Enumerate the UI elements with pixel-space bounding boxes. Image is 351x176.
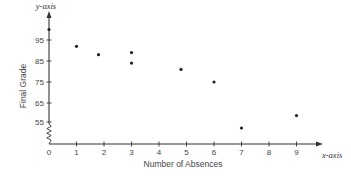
y-tick-label: 55 xyxy=(35,118,44,127)
data-point xyxy=(240,126,243,129)
y-tick-label: 85 xyxy=(35,57,44,66)
axes xyxy=(47,11,324,147)
y-tick-label: 75 xyxy=(35,78,44,87)
data-point xyxy=(97,53,100,56)
x-tick-label: 2 xyxy=(102,148,107,157)
x-axis-arrow-icon xyxy=(316,142,323,147)
x-tick-label: 4 xyxy=(157,148,162,157)
data-point xyxy=(130,62,133,65)
x-tick-label: 5 xyxy=(184,148,189,157)
data-point xyxy=(295,114,298,117)
x-tick-label: 1 xyxy=(74,148,79,157)
y-tick-label: 65 xyxy=(35,99,44,108)
data-point xyxy=(179,68,182,71)
x-tick-label: 9 xyxy=(294,148,299,157)
data-points xyxy=(47,28,298,130)
y-axis-arrow-icon xyxy=(47,11,52,18)
data-point xyxy=(75,45,78,48)
x-tick-label: 6 xyxy=(212,148,217,157)
y-axis-title: Final Grade xyxy=(18,64,28,109)
y-tick-label: 95 xyxy=(35,36,44,45)
data-point xyxy=(47,28,50,31)
x-tick-label: 3 xyxy=(129,148,134,157)
x-tick-label: 7 xyxy=(239,148,244,157)
x-tick-label: 0 xyxy=(47,148,52,157)
x-axis-name: x-axis xyxy=(321,150,343,160)
y-axis-break-icon xyxy=(47,124,51,144)
data-point xyxy=(130,51,133,54)
data-point xyxy=(212,80,215,83)
scatter-chart: 5565758595 0123456789 Final Grade Number… xyxy=(0,0,351,176)
y-axis-name: y-axis xyxy=(35,1,57,11)
x-axis-title: Number of Absences xyxy=(144,159,223,169)
x-tick-label: 8 xyxy=(267,148,272,157)
